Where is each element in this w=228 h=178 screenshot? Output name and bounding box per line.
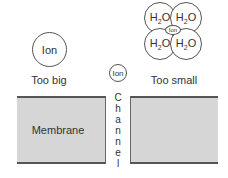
too-small-caption: Too small (146, 74, 202, 86)
channel-label: C h a n n e l (112, 92, 124, 169)
ion-channel-diagram: Ion Too big H2O H2O H2O H2O Ion Too smal… (0, 0, 228, 178)
channel-ion-circle: Ion (109, 64, 127, 82)
channel-ion-label: Ion (112, 69, 123, 78)
large-ion-label: Ion (42, 44, 57, 56)
large-ion-circle: Ion (32, 32, 67, 67)
small-ion-label: Ion (169, 27, 177, 33)
membrane-label: Membrane (30, 124, 86, 136)
membrane-right (130, 96, 218, 164)
too-big-caption: Too big (24, 74, 74, 86)
small-ion-circle: Ion (165, 25, 181, 35)
